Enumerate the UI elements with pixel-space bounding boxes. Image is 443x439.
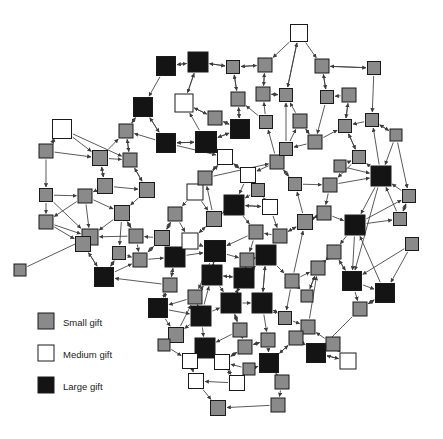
graph-node-small[interactable] [163, 278, 177, 292]
graph-node-small[interactable] [289, 331, 303, 345]
graph-node-small[interactable] [39, 144, 53, 158]
graph-node-medium[interactable] [263, 200, 278, 215]
graph-node-large[interactable] [231, 120, 250, 139]
graph-node-small[interactable] [169, 328, 184, 343]
graph-node-small[interactable] [279, 312, 292, 325]
graph-node-small[interactable] [133, 253, 147, 267]
graph-node-small[interactable] [275, 375, 289, 389]
graph-node-small[interactable] [280, 89, 293, 102]
graph-node-small[interactable] [403, 190, 416, 203]
graph-node-large[interactable] [134, 98, 153, 117]
graph-node-small[interactable] [339, 120, 352, 133]
graph-node-large[interactable] [371, 166, 391, 186]
graph-node-large[interactable] [376, 284, 395, 303]
graph-node-large[interactable] [165, 247, 185, 267]
graph-node-small[interactable] [298, 215, 313, 230]
graph-node-small[interactable] [256, 87, 270, 101]
graph-node-large[interactable] [191, 306, 211, 326]
graph-node-small[interactable] [327, 245, 341, 259]
graph-node-small[interactable] [158, 339, 170, 351]
graph-node-small[interactable] [323, 178, 337, 192]
graph-node-small[interactable] [342, 88, 356, 102]
graph-node-medium[interactable] [182, 233, 198, 249]
graph-node-small[interactable] [211, 401, 226, 416]
graph-node-large[interactable] [221, 293, 241, 313]
graph-node-small[interactable] [317, 206, 331, 220]
graph-node-medium[interactable] [218, 150, 233, 165]
graph-node-small[interactable] [119, 124, 133, 138]
graph-node-small[interactable] [93, 151, 108, 166]
graph-node-small[interactable] [252, 184, 265, 197]
graph-node-small[interactable] [368, 62, 381, 75]
graph-node-small[interactable] [289, 178, 302, 191]
graph-node-large[interactable] [149, 299, 168, 318]
graph-node-small[interactable] [308, 135, 322, 149]
graph-node-small[interactable] [258, 58, 272, 72]
graph-node-small[interactable] [227, 61, 240, 74]
graph-node-small[interactable] [249, 225, 263, 239]
graph-node-large[interactable] [202, 265, 222, 285]
graph-node-medium[interactable] [189, 374, 204, 389]
graph-node-small[interactable] [123, 153, 137, 167]
graph-node-small[interactable] [285, 274, 299, 288]
graph-node-medium[interactable] [187, 184, 203, 200]
graph-node-small[interactable] [207, 212, 222, 227]
graph-node-small[interactable] [129, 229, 143, 243]
graph-node-medium[interactable] [291, 25, 308, 42]
graph-node-large[interactable] [260, 354, 279, 373]
graph-node-small[interactable] [273, 229, 287, 243]
graph-node-small[interactable] [231, 92, 245, 106]
graph-node-large[interactable] [224, 195, 244, 215]
graph-node-large[interactable] [345, 215, 365, 235]
graph-node-medium[interactable] [340, 353, 356, 369]
graph-node-small[interactable] [238, 340, 252, 354]
graph-node-small[interactable] [326, 337, 340, 351]
graph-node-small[interactable] [240, 253, 254, 267]
graph-node-small[interactable] [188, 290, 202, 304]
graph-node-small[interactable] [14, 264, 26, 276]
graph-node-small[interactable] [208, 111, 222, 125]
graph-node-small[interactable] [315, 59, 329, 73]
graph-node-small[interactable] [98, 179, 113, 194]
graph-node-small[interactable] [321, 91, 334, 104]
graph-node-small[interactable] [353, 302, 367, 316]
graph-node-large[interactable] [188, 52, 208, 72]
graph-node-small[interactable] [301, 290, 313, 302]
graph-node-large[interactable] [343, 272, 362, 291]
graph-node-large[interactable] [157, 134, 176, 153]
graph-node-medium[interactable] [175, 94, 193, 112]
graph-node-small[interactable] [353, 151, 366, 164]
graph-node-large[interactable] [252, 293, 272, 313]
graph-node-small[interactable] [406, 238, 419, 251]
graph-node-small[interactable] [270, 155, 284, 169]
graph-node-small[interactable] [113, 247, 126, 260]
graph-node-small[interactable] [311, 261, 325, 275]
graph-node-small[interactable] [334, 160, 346, 172]
graph-node-small[interactable] [76, 237, 91, 252]
graph-node-small[interactable] [366, 114, 379, 127]
graph-node-medium[interactable] [215, 355, 230, 370]
graph-node-medium[interactable] [183, 354, 198, 369]
graph-node-large[interactable] [196, 132, 217, 153]
graph-node-small[interactable] [40, 189, 53, 202]
graph-node-small[interactable] [78, 189, 92, 203]
graph-node-small[interactable] [280, 143, 293, 156]
graph-node-small[interactable] [39, 215, 53, 229]
graph-node-large[interactable] [234, 268, 254, 288]
graph-node-small[interactable] [271, 398, 285, 412]
graph-node-small[interactable] [243, 363, 255, 375]
graph-node-small[interactable] [293, 114, 307, 128]
graph-node-small[interactable] [233, 323, 247, 337]
graph-node-medium[interactable] [230, 376, 245, 391]
graph-node-small[interactable] [155, 231, 170, 246]
graph-node-small[interactable] [390, 129, 402, 141]
graph-node-small[interactable] [261, 333, 275, 347]
graph-node-large[interactable] [205, 241, 226, 262]
graph-node-small[interactable] [168, 207, 182, 221]
graph-node-small[interactable] [394, 213, 407, 226]
graph-node-small[interactable] [260, 116, 273, 129]
graph-node-medium[interactable] [53, 120, 72, 139]
graph-node-large[interactable] [307, 344, 326, 363]
graph-node-small[interactable] [198, 171, 212, 185]
graph-node-small[interactable] [140, 183, 155, 198]
